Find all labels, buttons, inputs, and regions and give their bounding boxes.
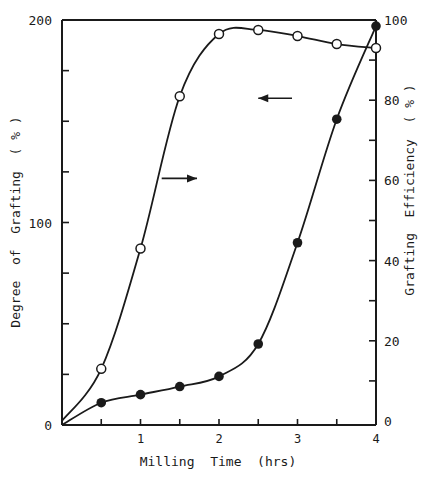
arrowhead-icon xyxy=(258,94,268,102)
grafting-efficiency-point xyxy=(97,364,106,373)
grafting-efficiency-point xyxy=(215,30,224,39)
x-tick-label: 2 xyxy=(215,432,222,446)
degree-of-grafting-point xyxy=(96,398,106,408)
x-tick-label: 1 xyxy=(137,432,144,446)
y-left-tick-label: 100 xyxy=(29,216,52,231)
y-right-tick-label: 0 xyxy=(384,414,392,429)
arrowhead-icon xyxy=(187,174,197,182)
y-right-tick-label: 80 xyxy=(384,93,400,108)
plot-frame xyxy=(62,20,376,425)
degree-of-grafting-point xyxy=(175,382,185,392)
y-right-tick-label: 100 xyxy=(384,13,407,28)
data-curves xyxy=(62,26,376,425)
grafting-efficiency-point xyxy=(332,40,341,49)
x-axis-label: Milling Time (hrs) xyxy=(140,454,297,469)
y-left-tick-label: 0 xyxy=(44,418,52,433)
grafting-efficiency-point xyxy=(136,244,145,253)
degree-of-grafting-point xyxy=(371,21,381,31)
y-right-tick-label: 40 xyxy=(384,254,400,269)
degree-of-grafting-point xyxy=(293,238,303,248)
axis-ticks xyxy=(62,60,376,425)
degree-of-grafting-point xyxy=(253,339,263,349)
y-right-axis-label: Grafting Efficiency ( % ) xyxy=(402,84,417,295)
grafting-efficiency-point xyxy=(293,32,302,41)
grafting-efficiency-point xyxy=(372,44,381,53)
degree-of-grafting-point xyxy=(332,114,342,124)
grafting-efficiency-curve xyxy=(62,28,376,421)
degree-of-grafting-point xyxy=(214,372,224,382)
x-tick-label: 3 xyxy=(294,432,301,446)
grafting-efficiency-point xyxy=(254,26,263,35)
series-arrows xyxy=(162,94,292,182)
data-markers xyxy=(96,21,380,407)
x-tick-label: 4 xyxy=(372,432,379,446)
degree-of-grafting-point xyxy=(136,390,146,400)
y-right-tick-label: 20 xyxy=(384,334,400,349)
y-left-tick-label: 200 xyxy=(29,13,52,28)
y-right-tick-label: 60 xyxy=(384,173,400,188)
degree-of-grafting-curve xyxy=(62,26,376,425)
grafting-efficiency-point xyxy=(175,92,184,101)
chart: 12340100200020406080100 Milling Time (hr… xyxy=(0,0,429,479)
y-left-axis-label: Degree of Grafting ( % ) xyxy=(8,116,23,327)
